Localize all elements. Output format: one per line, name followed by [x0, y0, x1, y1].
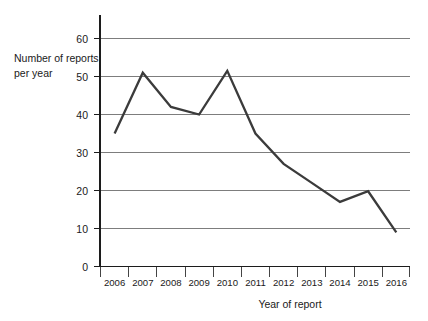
y-tick-label-40: 40	[76, 109, 88, 121]
x-tick-label-2015: 2015	[358, 277, 379, 288]
x-tick-label-2010: 2010	[217, 277, 238, 288]
x-tick-label-2014: 2014	[329, 277, 351, 288]
y-tick-label-10: 10	[76, 223, 88, 235]
x-tick-label-2012: 2012	[273, 277, 294, 288]
y-tick-label-60: 60	[76, 33, 88, 45]
chart-background	[0, 0, 428, 321]
x-tick-label-2013: 2013	[301, 277, 322, 288]
y-axis-title-line1: Number of reports	[14, 52, 99, 64]
x-tick-label-2007: 2007	[132, 277, 153, 288]
y-tick-label-50: 50	[76, 71, 88, 83]
y-tick-label-30: 30	[76, 147, 88, 159]
x-axis-tick-labels: 2006 2007 2008 2009 2010 2011 2012 2013 …	[104, 277, 407, 288]
x-axis-title: Year of report	[258, 298, 321, 310]
x-tick-label-2009: 2009	[188, 277, 209, 288]
x-tick-label-2006: 2006	[104, 277, 125, 288]
y-tick-label-0: 0	[82, 261, 88, 273]
y-tick-label-20: 20	[76, 185, 88, 197]
x-tick-label-2011: 2011	[245, 277, 266, 288]
line-chart: 60 50 40 30 20 10 0 Number of reports pe…	[0, 0, 428, 321]
y-axis-title-line2: per year	[14, 67, 53, 79]
x-tick-label-2016: 2016	[386, 277, 407, 288]
x-tick-label-2008: 2008	[160, 277, 181, 288]
chart-container: 60 50 40 30 20 10 0 Number of reports pe…	[0, 0, 428, 321]
